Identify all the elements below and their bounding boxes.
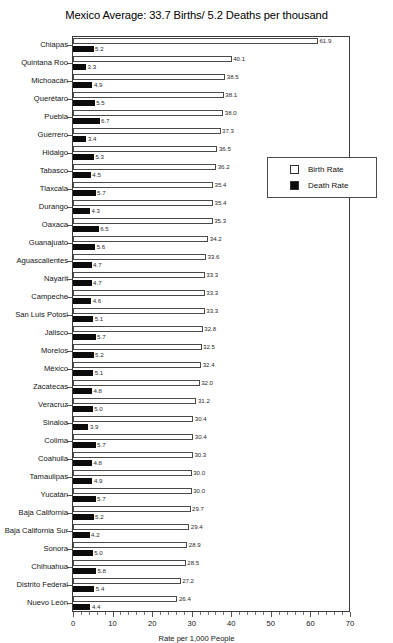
birth-rate-bar — [73, 164, 216, 170]
x-tick-minor — [89, 612, 90, 615]
death-rate-value: 4.9 — [94, 82, 102, 88]
bar-row: Distrito Federal27.25.4 — [0, 576, 393, 594]
death-rate-bar — [73, 586, 94, 592]
x-tick-minor — [318, 612, 319, 615]
category-label: México — [0, 364, 68, 374]
birth-rate-bar — [73, 542, 187, 548]
birth-rate-value: 40.1 — [233, 56, 245, 62]
category-label: Veracruz — [0, 400, 68, 410]
bar-row: Chihuahua28.55.8 — [0, 558, 393, 576]
bar-row: Tamaulipas30.04.9 — [0, 468, 393, 486]
bar-rows: Chiapas61.95.2Quintana Roo40.13.3Michoac… — [0, 0, 393, 643]
birth-rate-bar — [73, 308, 205, 314]
death-rate-bar — [73, 370, 93, 376]
x-tick-label: 0 — [71, 619, 75, 628]
category-label: Sinaloa — [0, 418, 68, 428]
category-label: San Luis Potosi — [0, 310, 68, 320]
death-rate-bar — [73, 118, 100, 124]
x-tick-minor — [303, 612, 304, 615]
death-rate-bar — [73, 280, 92, 286]
death-rate-value: 4.3 — [92, 208, 100, 214]
bar-row: Michoacán38.54.9 — [0, 72, 393, 90]
death-rate-bar — [73, 388, 92, 394]
x-tick-minor — [97, 612, 98, 615]
birth-rate-bar — [73, 290, 205, 296]
category-label: Colima — [0, 436, 68, 446]
birth-rate-bar — [73, 272, 205, 278]
death-rate-value: 3.4 — [88, 136, 96, 142]
death-rate-value: 5.3 — [95, 154, 103, 160]
death-rate-value: 5.7 — [97, 496, 105, 502]
death-rate-value: 3.3 — [88, 64, 96, 70]
birth-rate-bar — [73, 92, 224, 98]
birth-rate-value: 32.4 — [203, 362, 215, 368]
x-tick-minor — [160, 612, 161, 615]
bar-row: México32.45.1 — [0, 360, 393, 378]
x-axis-title: Rate per 1,000 People — [0, 634, 393, 643]
bar-row: Guanajuato34.25.6 — [0, 234, 393, 252]
bar-row: Jalisco32.85.7 — [0, 324, 393, 342]
birth-rate-bar — [73, 344, 202, 350]
bar-row: Quintana Roo40.13.3 — [0, 54, 393, 72]
birth-rate-value: 32.5 — [203, 344, 215, 350]
death-rate-bar — [73, 334, 96, 340]
legend-label-birth-rate: Birth Rate — [308, 164, 344, 175]
death-rate-bar — [73, 154, 94, 160]
bar-row: Zacatecas32.04.8 — [0, 378, 393, 396]
birth-rate-bar — [73, 128, 221, 134]
bar-chart: Mexico Average: 33.7 Births/ 5.2 Deaths … — [0, 0, 393, 643]
death-rate-value: 4.8 — [93, 388, 101, 394]
category-label: Baja California Sur — [0, 526, 68, 536]
category-label: Quintana Roo — [0, 58, 68, 68]
category-label: Baja California — [0, 508, 68, 518]
category-label: Zacatecas — [0, 382, 68, 392]
birth-rate-value: 30.0 — [193, 470, 205, 476]
death-rate-value: 5.5 — [96, 100, 104, 106]
x-tick — [113, 612, 114, 617]
birth-rate-bar — [73, 182, 213, 188]
death-rate-value: 5.1 — [95, 316, 103, 322]
x-tick-minor — [81, 612, 82, 615]
bar-row: Baja California Sur29.44.2 — [0, 522, 393, 540]
death-rate-value: 5.0 — [94, 406, 102, 412]
bar-row: Chiapas61.95.2 — [0, 36, 393, 54]
death-rate-value: 5.7 — [97, 190, 105, 196]
birth-rate-bar — [73, 416, 193, 422]
x-tick-label: 50 — [267, 619, 275, 628]
birth-rate-value: 30.3 — [194, 452, 206, 458]
birth-rate-bar — [73, 524, 189, 530]
bar-row: Morelos32.55.2 — [0, 342, 393, 360]
x-tick-minor — [279, 612, 280, 615]
death-rate-value: 5.6 — [97, 244, 105, 250]
death-rate-value: 4.7 — [93, 262, 101, 268]
category-label: Tamaulipas — [0, 472, 68, 482]
death-rate-bar — [73, 64, 86, 70]
x-tick-label: 40 — [227, 619, 235, 628]
birth-rate-bar — [73, 146, 217, 152]
bar-row: Oaxaca35.36.5 — [0, 216, 393, 234]
death-rate-bar — [73, 406, 93, 412]
birth-rate-value: 35.4 — [215, 182, 227, 188]
birth-rate-value: 28.5 — [187, 560, 199, 566]
x-tick-label: 70 — [346, 619, 354, 628]
death-rate-bar — [73, 298, 91, 304]
x-tick-minor — [342, 612, 343, 615]
x-tick-minor — [334, 612, 335, 615]
birth-rate-value: 35.3 — [214, 218, 226, 224]
x-tick-minor — [105, 612, 106, 615]
death-rate-value: 5.2 — [95, 352, 103, 358]
bar-row: Campeche33.34.6 — [0, 288, 393, 306]
birth-rate-value: 35.4 — [215, 200, 227, 206]
category-label: Querétaro — [0, 94, 68, 104]
x-tick-minor — [144, 612, 145, 615]
category-label: Nayarit — [0, 274, 68, 284]
birth-rate-bar — [73, 56, 232, 62]
death-rate-value: 4.4 — [92, 604, 100, 610]
category-label: Chiapas — [0, 40, 68, 50]
death-rate-bar — [73, 568, 96, 574]
death-rate-value: 5.0 — [94, 550, 102, 556]
bar-row: Veracruz31.25.0 — [0, 396, 393, 414]
birth-rate-bar — [73, 380, 200, 386]
category-label: Campeche — [0, 292, 68, 302]
death-rate-value: 5.4 — [96, 586, 104, 592]
